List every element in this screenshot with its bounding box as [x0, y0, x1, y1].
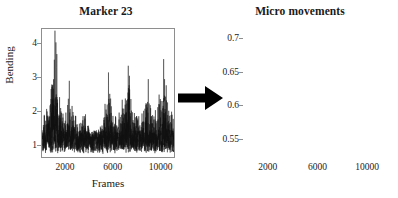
y-tick-mark — [239, 38, 243, 39]
panel-left-title: Marker 23 — [0, 4, 190, 18]
x-tick-label: 2000 — [258, 161, 277, 173]
figure-container: Marker 23 Bending 1234 2000600010000 Fra… — [0, 0, 398, 198]
y-tick-mark — [239, 105, 243, 106]
y-tick-mark — [239, 139, 243, 140]
panel-right-x-tick-labels: 2000600010000 — [243, 161, 382, 175]
y-tick-mark — [239, 72, 243, 73]
panel-left-x-tick-labels: 2000600010000 — [41, 161, 175, 175]
series-path — [42, 31, 174, 154]
y-tick-label: 0.7 — [227, 33, 239, 43]
panel-right-y-tick-labels: 0.550.60.650.7 — [198, 28, 239, 158]
x-tick-label: 2000 — [55, 161, 74, 173]
panel-left-x-axis-label: Frames — [41, 176, 175, 190]
y-tick-label: 0.6 — [227, 100, 239, 110]
panel-left-plot-area — [41, 28, 175, 158]
x-tick-label: 6000 — [308, 161, 327, 173]
x-tick-label: 10000 — [149, 161, 173, 173]
y-tick-label: 0.65 — [222, 67, 239, 77]
panel-right-title: Micro movements — [200, 4, 398, 18]
y-tick-label: 0.55 — [222, 134, 239, 144]
panel-marker-23: Marker 23 Bending 1234 2000600010000 Fra… — [0, 0, 190, 198]
panel-left-data-series — [42, 29, 174, 157]
x-tick-label: 6000 — [103, 161, 122, 173]
x-tick-label: 10000 — [355, 161, 379, 173]
panel-left-y-tick-labels: 1234 — [0, 28, 37, 158]
